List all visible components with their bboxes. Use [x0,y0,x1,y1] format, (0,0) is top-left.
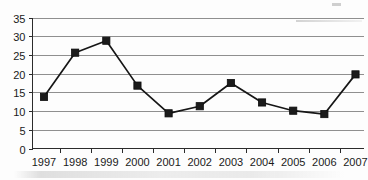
data-point-marker [196,103,203,110]
x-axis-tick-label: 2003 [219,156,243,168]
y-axis-tick-label: 35 [13,13,25,25]
data-point-marker [72,49,79,56]
x-axis-tick-label: 2005 [281,156,305,168]
y-axis-tick-label: 5 [19,125,25,137]
data-point-marker [40,93,47,100]
x-axis-tick-label: 2004 [250,156,274,168]
y-axis-tick-label: 10 [13,106,25,118]
y-axis-tick-label: 30 [13,31,25,43]
scan-artifact-smudge-icon [14,171,344,178]
data-point-marker [290,107,297,114]
x-axis-tick-label: 2006 [312,156,336,168]
data-point-marker [227,79,234,86]
x-axis-tick-label: 1998 [63,156,87,168]
line-chart-plot: 05101520253035 1997199819992000200120022… [0,0,368,180]
y-axis-tick-label: 20 [13,69,25,81]
series-markers-group [40,37,359,118]
data-point-marker [321,110,328,117]
y-axis-tick-label: 15 [13,87,25,99]
x-axis-tick-label: 2000 [125,156,149,168]
y-axis-tick-labels-group: 05101520253035 [13,13,25,156]
x-axis-tick-labels-group: 1997199819992000200120022003200420052006… [32,156,368,168]
x-axis-tick-label: 2002 [188,156,212,168]
y-axis-tick-label: 25 [13,50,25,62]
x-axis-tick-label: 2007 [343,156,367,168]
chart-figure: 05101520253035 1997199819992000200120022… [0,0,368,180]
x-axis-tick-label: 1997 [32,156,56,168]
data-point-marker [134,82,141,89]
y-axis-tick-label: 0 [19,144,25,156]
data-point-marker [258,99,265,106]
x-axis-tick-label: 2001 [156,156,180,168]
data-point-marker [103,37,110,44]
data-point-marker [165,110,172,117]
x-axis-tick-label: 1999 [94,156,118,168]
data-point-marker [352,71,359,78]
